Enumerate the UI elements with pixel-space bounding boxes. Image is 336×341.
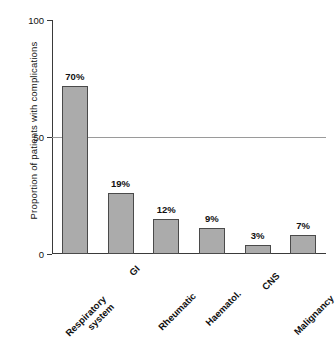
bar[interactable] [62,86,88,254]
bar-value-label: 12% [157,204,176,215]
bar-group[interactable]: 19% [108,20,134,254]
bar-value-label: 3% [251,230,265,241]
x-axis-label: Rheumatic [156,290,198,332]
y-tick-label: 100 [28,15,44,26]
bar-value-label: 7% [296,220,310,231]
bar-group[interactable]: 12% [153,20,179,254]
x-axis-labels: Respiratory systemGIRheumaticHaematol.CN… [52,256,332,311]
y-axis-title: Proportion of patients with complication… [28,26,39,236]
plot-area: 050100 70%19%12%9%3%7% [52,20,326,254]
x-axis-label: Malignancy [292,293,336,337]
bar-value-label: 19% [111,178,130,189]
bar[interactable] [290,235,316,254]
bar-group[interactable]: 3% [245,20,271,254]
bar-group[interactable]: 7% [290,20,316,254]
bar-value-label: 70% [65,71,84,82]
bar[interactable] [199,228,225,254]
y-tick-label: 50 [33,132,44,143]
x-axis-label: Haematol. [203,288,243,328]
bars-layer: 70%19%12%9%3%7% [52,20,326,254]
bar[interactable] [153,219,179,254]
x-axis-label: Respiratory system [63,293,116,341]
x-axis-label: GI [126,263,141,278]
bar[interactable] [245,245,271,254]
bar-group[interactable]: 70% [62,20,88,254]
y-tick-label: 0 [39,249,44,260]
bar[interactable] [108,193,134,254]
bar-group[interactable]: 9% [199,20,225,254]
y-tick-mark [47,254,52,255]
x-axis-label: CNS [259,270,281,292]
bar-value-label: 9% [205,213,219,224]
